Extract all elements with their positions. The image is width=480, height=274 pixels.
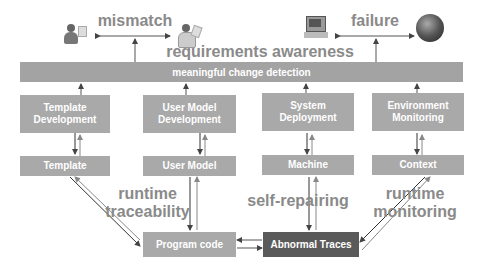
user-with-document-icon [64,24,88,46]
program-code-box: Program code [143,232,236,257]
computer-icon [304,16,328,40]
mismatch-label: mismatch [95,12,175,30]
runtime-monitoring-label: runtime monitoring [365,185,465,221]
machine-box: Machine [262,155,354,175]
abnormal-traces-box: Abnormal Traces [263,232,359,257]
environment-monitoring-box: Environment Monitoring [372,93,464,131]
template-box: Template [20,156,110,176]
globe-icon [416,14,444,42]
runtime-traceability-label: runtime traceability [100,185,195,221]
failure-label: failure [340,12,410,30]
self-repairing-label: self-repairing [242,192,354,210]
user-model-development-box: User Model Development [143,95,236,133]
template-development-box: Template Development [20,95,110,133]
requirements-awareness-title: requirements awareness [150,43,370,61]
context-box: Context [372,155,464,175]
system-deployment-box: System Deployment [262,93,354,131]
user-model-box: User Model [143,156,236,176]
meaningful-change-detection-bar: meaningful change detection [20,62,463,82]
